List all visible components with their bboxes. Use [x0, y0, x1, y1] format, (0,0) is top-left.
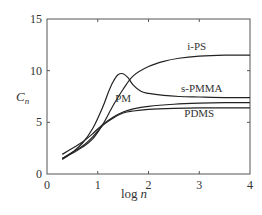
- x-tick-label: 1: [95, 178, 101, 192]
- chart: 01234051015 i-PSs-PMMAPMPDMS Cn logn: [0, 0, 262, 215]
- y-tick-label: 15: [30, 12, 42, 26]
- label-pm: PM: [115, 92, 131, 104]
- y-tick-label: 5: [36, 115, 42, 129]
- y-axis-title: Cn: [16, 89, 30, 106]
- curve-i-ps: [62, 55, 250, 158]
- curve-labels: i-PSs-PMMAPMPDMS: [115, 40, 222, 119]
- tick-labels: 01234051015: [30, 12, 253, 192]
- curve-pm: [62, 103, 250, 155]
- x-tick-label: 3: [196, 178, 202, 192]
- x-tick-label: 0: [44, 178, 50, 192]
- curves: [62, 55, 250, 159]
- y-tick-label: 0: [36, 167, 42, 181]
- label-s-pmma: s-PMMA: [181, 82, 223, 94]
- y-tick-label: 10: [30, 64, 42, 78]
- label-i-ps: i-PS: [187, 40, 206, 52]
- x-tick-label: 4: [247, 178, 253, 192]
- x-axis-title: logn: [121, 186, 147, 201]
- label-pdms: PDMS: [184, 107, 214, 119]
